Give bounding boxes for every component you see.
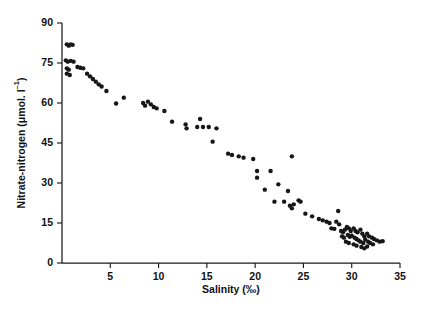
data-point bbox=[237, 154, 241, 158]
data-point bbox=[286, 189, 290, 193]
data-point bbox=[336, 209, 340, 213]
x-tick-label: 35 bbox=[394, 270, 406, 282]
data-point bbox=[342, 235, 346, 239]
data-point bbox=[114, 101, 118, 105]
data-point bbox=[255, 169, 259, 173]
data-point bbox=[104, 89, 108, 93]
y-axis-ticks: 0153045607590 bbox=[41, 16, 62, 268]
data-point bbox=[230, 153, 234, 157]
data-point bbox=[321, 218, 325, 222]
data-point bbox=[263, 187, 267, 191]
x-tick-label: 10 bbox=[153, 270, 165, 282]
x-axis-title: Salinity (‰) bbox=[202, 283, 260, 295]
data-point bbox=[272, 199, 276, 203]
data-point bbox=[81, 66, 85, 70]
data-point bbox=[276, 182, 280, 186]
data-point bbox=[210, 139, 214, 143]
data-point bbox=[67, 67, 71, 71]
x-tick-label: 15 bbox=[201, 270, 213, 282]
data-point bbox=[154, 106, 158, 110]
data-point bbox=[347, 241, 351, 245]
data-point bbox=[214, 126, 218, 130]
data-point bbox=[358, 227, 362, 231]
data-point bbox=[68, 73, 72, 77]
scatter-plot-figure: 0153045607590 5101520253035 Salinity (‰)… bbox=[0, 0, 424, 317]
x-axis-ticks: 5101520253035 bbox=[107, 263, 406, 282]
data-point bbox=[380, 239, 384, 243]
data-point bbox=[317, 217, 321, 221]
x-tick-label: 20 bbox=[249, 270, 261, 282]
data-point bbox=[371, 242, 375, 246]
data-point bbox=[71, 59, 75, 63]
y-tick-label: 0 bbox=[47, 256, 53, 268]
data-point bbox=[184, 126, 188, 130]
data-point bbox=[122, 95, 126, 99]
data-point bbox=[290, 154, 294, 158]
data-point bbox=[292, 202, 296, 206]
data-points-layer bbox=[64, 42, 385, 250]
data-point bbox=[332, 227, 336, 231]
y-tick-label: 30 bbox=[41, 176, 53, 188]
data-point bbox=[268, 169, 272, 173]
data-point bbox=[162, 109, 166, 113]
y-tick-label: 75 bbox=[41, 56, 53, 68]
data-point bbox=[282, 199, 286, 203]
data-point bbox=[354, 243, 358, 247]
data-point bbox=[70, 43, 74, 47]
x-tick-label: 30 bbox=[346, 270, 358, 282]
data-point bbox=[226, 151, 230, 155]
data-point bbox=[337, 222, 341, 226]
data-point bbox=[255, 175, 259, 179]
data-point bbox=[303, 211, 307, 215]
data-point bbox=[298, 199, 302, 203]
data-point bbox=[195, 125, 199, 129]
x-tick-label: 25 bbox=[298, 270, 310, 282]
data-point bbox=[207, 125, 211, 129]
chart-canvas: 0153045607590 5101520253035 Salinity (‰)… bbox=[0, 0, 424, 317]
data-point bbox=[143, 103, 147, 107]
data-point bbox=[183, 122, 187, 126]
data-point bbox=[251, 157, 255, 161]
y-tick-label: 45 bbox=[41, 136, 53, 148]
x-tick-label: 5 bbox=[107, 270, 113, 282]
data-point bbox=[99, 84, 103, 88]
data-point bbox=[170, 119, 174, 123]
data-point bbox=[327, 221, 331, 225]
data-point bbox=[198, 117, 202, 121]
data-point bbox=[290, 206, 294, 210]
data-point bbox=[310, 214, 314, 218]
y-tick-label: 90 bbox=[41, 16, 53, 28]
data-point bbox=[365, 244, 369, 248]
y-tick-label: 15 bbox=[41, 216, 53, 228]
data-point bbox=[241, 155, 245, 159]
y-axis-title: Nitrate-nitrogen (μmol. l–1) bbox=[12, 78, 26, 209]
data-point bbox=[201, 125, 205, 129]
y-tick-label: 60 bbox=[41, 96, 53, 108]
